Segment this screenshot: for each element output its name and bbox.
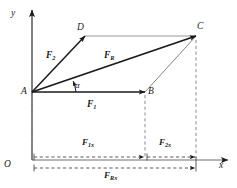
parallelogram-outline	[85, 36, 196, 92]
vector-label-f1: F1	[87, 100, 96, 110]
dim-label-frx: FRx	[104, 171, 117, 180]
vector-label-f2: F2	[46, 51, 55, 61]
dim-label-frx-sub: Rx	[110, 174, 117, 181]
dim-frx	[34, 157, 196, 172]
vector-parallelogram-figure: y x O A B C D F2 FR F1 α F1x F2x FRx	[0, 0, 237, 188]
axis-group	[32, 10, 228, 160]
x-axis-label: x	[219, 161, 223, 171]
y-axis-label: y	[11, 9, 15, 19]
point-label-c: C	[197, 22, 203, 32]
dim-label-f1x: F1x	[82, 138, 94, 147]
origin-label: O	[4, 160, 11, 170]
dim-label-f2x: F2x	[159, 138, 171, 147]
point-label-a: A	[21, 87, 27, 97]
point-label-b: B	[148, 87, 154, 97]
vector-label-f2-sub: 2	[52, 54, 55, 61]
vector-fr-arrow	[32, 36, 196, 92]
dim-label-f1x-sub: 1x	[88, 141, 94, 148]
vector-label-f1-sub: 1	[93, 103, 96, 110]
dim-label-f2x-sub: 2x	[165, 141, 171, 148]
vector-label-fr-sub: R	[110, 54, 114, 61]
angle-alpha-label: α	[75, 81, 80, 90]
vector-label-fr: FR	[104, 51, 114, 61]
point-label-d: D	[77, 23, 84, 33]
